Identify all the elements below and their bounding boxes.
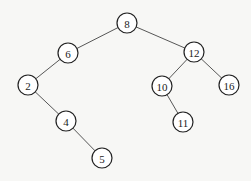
node-label: 5	[99, 153, 105, 165]
tree-node-16: 16	[219, 75, 239, 95]
node-label: 6	[65, 48, 71, 60]
tree-node-8: 8	[117, 13, 137, 33]
tree-node-4: 4	[56, 111, 76, 131]
tree-node-6: 6	[58, 43, 78, 63]
tree-node-5: 5	[92, 148, 112, 168]
node-label: 11	[178, 117, 189, 129]
node-label: 10	[157, 81, 169, 93]
node-label: 8	[124, 18, 130, 30]
tree-node-11: 11	[173, 112, 193, 132]
node-label: 12	[189, 47, 200, 59]
binary-tree-diagram: 8612210164115	[0, 0, 251, 181]
tree-node-10: 10	[152, 76, 172, 96]
tree-nodes: 8612210164115	[18, 13, 239, 168]
tree-node-2: 2	[18, 75, 38, 95]
edge-8-12	[136, 27, 185, 48]
edge-2-4	[35, 92, 58, 114]
tree-node-12: 12	[184, 42, 204, 62]
node-label: 4	[63, 116, 69, 128]
edge-10-11	[167, 95, 178, 114]
edge-4-5	[73, 128, 95, 151]
node-label: 16	[224, 80, 236, 92]
edge-12-16	[201, 59, 221, 78]
edge-6-2	[36, 59, 60, 79]
edge-12-10	[169, 59, 187, 78]
node-label: 2	[25, 80, 31, 92]
edge-8-6	[77, 28, 118, 49]
